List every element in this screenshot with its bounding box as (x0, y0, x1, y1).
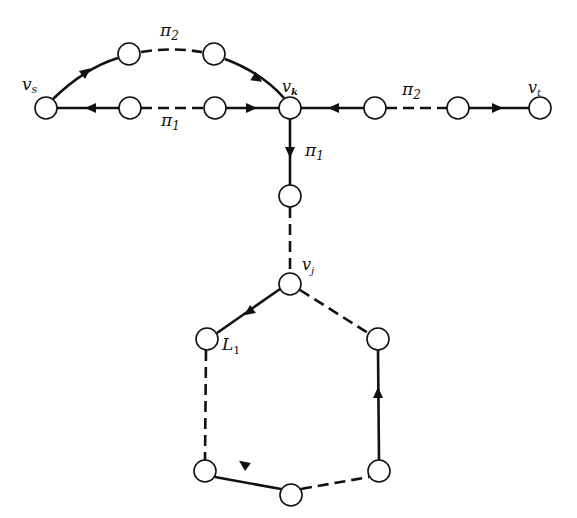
edge-hr2-hr1 (378, 350, 379, 460)
node-vt (529, 97, 551, 119)
node-hex-bottom (280, 484, 302, 506)
label-pi1-mid: π1 (160, 110, 180, 133)
node-vk (279, 97, 301, 119)
label-pi1-down: π1 (304, 140, 324, 163)
node-pi1-a (119, 97, 141, 119)
edge-vj-hr1-dashed (300, 290, 368, 333)
node-down-a (279, 185, 301, 207)
arrow-icon (492, 103, 503, 113)
label-vj: vj (302, 255, 314, 276)
node-pi2-b (203, 43, 225, 65)
node-vs (35, 97, 57, 119)
arrow-icon (373, 387, 383, 398)
label-vs: vs (22, 74, 38, 96)
label-pi2-right: π2 (401, 79, 421, 102)
node-pi1-b (204, 97, 226, 119)
node-pi2-a (118, 43, 140, 65)
edge-vs-p2a (53, 58, 118, 99)
label-pi2-top: π2 (159, 20, 179, 43)
label-vt: vt (528, 78, 542, 98)
graph-diagram: vs vk vt vj π2 π1 π2 π1 L1 (0, 0, 577, 518)
arrow-icon (328, 103, 339, 113)
edge-hl1-hl2-dashed (205, 350, 206, 460)
label-L1: L1 (221, 334, 240, 357)
node-right-a (364, 97, 386, 119)
edge-hb-hl2 (215, 477, 281, 489)
node-hex-l1 (196, 328, 218, 350)
edge-p2a-p2b-dashed (141, 50, 202, 53)
edge-hb-hr2-dashed (301, 477, 369, 489)
node-hex-r1 (367, 328, 389, 350)
node-right-b (447, 97, 469, 119)
label-vk: vk (282, 77, 298, 97)
arrow-icon (85, 103, 96, 113)
arrow-icon (246, 103, 257, 113)
node-hex-r2 (368, 460, 390, 482)
arrow-icon (236, 457, 251, 472)
node-hex-l2 (194, 460, 216, 482)
node-vj (279, 273, 301, 295)
arrow-icon (285, 147, 295, 158)
